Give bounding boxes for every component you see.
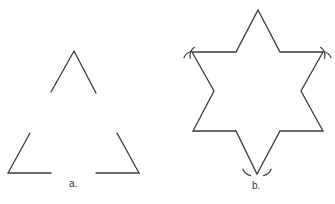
star-outline bbox=[192, 10, 323, 174]
triangle-segment-0 bbox=[51, 51, 96, 93]
compass-arc-marks bbox=[184, 47, 332, 176]
triangle-segment-2 bbox=[96, 133, 139, 173]
triangle-segment-1 bbox=[8, 133, 51, 173]
panel-b-label: b. bbox=[252, 180, 260, 191]
panel-a-triangle-segments bbox=[8, 51, 139, 173]
compass-arc-2 bbox=[263, 169, 271, 176]
panel-a-label: a. bbox=[69, 178, 77, 189]
panel-b-star bbox=[192, 10, 323, 174]
figure-canvas bbox=[0, 0, 335, 204]
compass-arc-2 bbox=[243, 169, 251, 176]
